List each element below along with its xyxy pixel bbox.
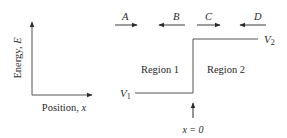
- boundary-label: x = 0: [181, 124, 203, 135]
- wave-label-b: B: [173, 11, 180, 22]
- wave-label-c: C: [205, 11, 213, 22]
- boundary-marker: x = 0: [181, 103, 203, 135]
- x-axis-label: Position, x: [42, 102, 87, 113]
- region-2-label: Region 2: [207, 64, 245, 75]
- region-1-label: Region 1: [141, 64, 179, 75]
- wave-label-a: A: [121, 11, 129, 22]
- potential-step-diagram: Energy, E Position, x A B C D V1 V2 Regi…: [0, 0, 287, 138]
- wave-arrows: A B C D: [115, 11, 266, 25]
- wave-label-d: D: [253, 11, 262, 22]
- v2-label: V2: [264, 33, 275, 47]
- y-axis-label: Energy, E: [12, 37, 23, 79]
- v1-label: V1: [120, 87, 131, 101]
- axes: Energy, E Position, x: [12, 22, 92, 113]
